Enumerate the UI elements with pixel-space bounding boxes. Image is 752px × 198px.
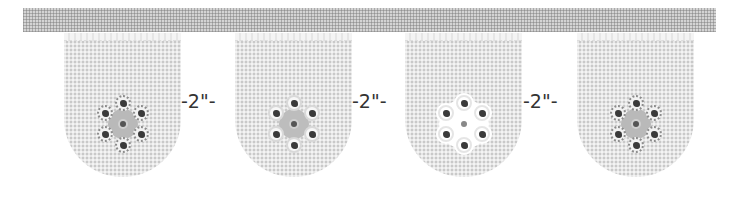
petal bbox=[646, 126, 662, 142]
gap-label-2: -2"- bbox=[352, 90, 387, 112]
petal bbox=[438, 105, 454, 121]
petal bbox=[304, 105, 320, 121]
petal bbox=[115, 137, 131, 153]
petal bbox=[268, 105, 284, 121]
petal bbox=[646, 105, 662, 121]
petal bbox=[286, 137, 302, 153]
petal bbox=[456, 95, 472, 111]
petal bbox=[115, 95, 131, 111]
petal bbox=[628, 95, 644, 111]
gap-label-1: -2"- bbox=[181, 90, 216, 112]
flower-center bbox=[633, 121, 639, 127]
petal bbox=[610, 105, 626, 121]
flower-center bbox=[291, 121, 297, 127]
petal bbox=[97, 105, 113, 121]
petal bbox=[474, 105, 490, 121]
petal bbox=[456, 137, 472, 153]
flower-applique bbox=[435, 95, 493, 153]
petal bbox=[610, 126, 626, 142]
petal bbox=[97, 126, 113, 142]
flower-applique bbox=[607, 95, 665, 153]
petal bbox=[438, 126, 454, 142]
pennant-1 bbox=[64, 33, 181, 177]
pennant-3 bbox=[405, 33, 522, 177]
flower-applique bbox=[94, 95, 152, 153]
pennant-2 bbox=[235, 33, 352, 177]
pennant-4 bbox=[577, 33, 694, 177]
banner-band bbox=[23, 8, 716, 32]
flower-center bbox=[461, 121, 467, 127]
petal bbox=[304, 126, 320, 142]
petal bbox=[286, 95, 302, 111]
petal bbox=[133, 126, 149, 142]
gap-label-3: -2"- bbox=[523, 90, 558, 112]
ruffle-trim bbox=[64, 33, 181, 41]
flower-center bbox=[120, 121, 126, 127]
ruffle-trim bbox=[405, 33, 522, 41]
petal bbox=[628, 137, 644, 153]
flower-applique bbox=[265, 95, 323, 153]
ruffle-trim bbox=[577, 33, 694, 41]
petal bbox=[474, 126, 490, 142]
petal bbox=[268, 126, 284, 142]
ruffle-trim bbox=[235, 33, 352, 41]
petal bbox=[133, 105, 149, 121]
